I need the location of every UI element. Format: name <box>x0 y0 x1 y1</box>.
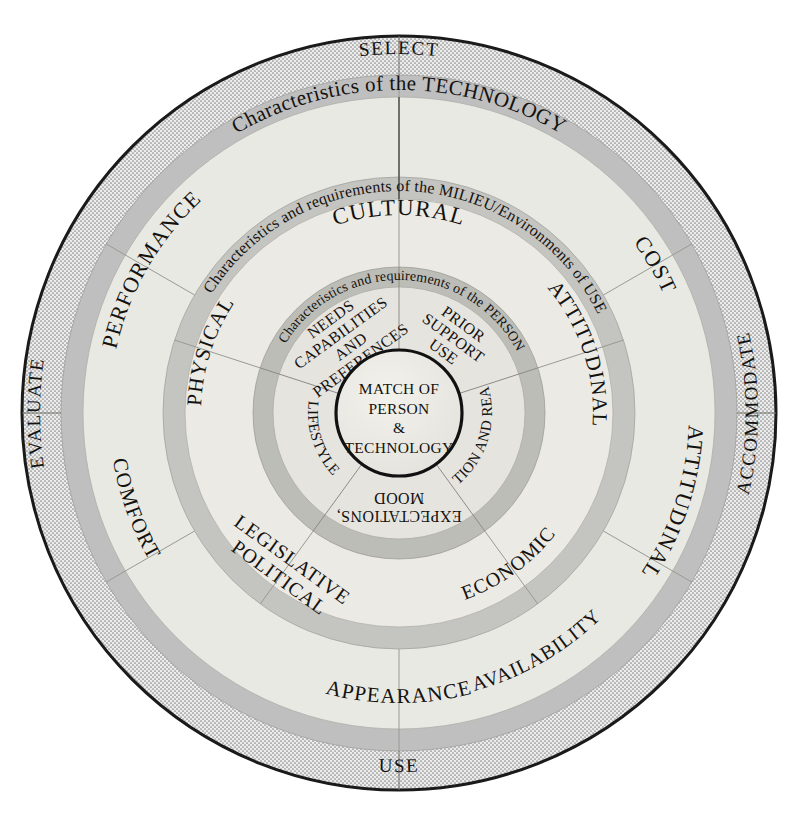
core-node: MATCH OF PERSON & TECHNOLOGY <box>336 350 462 476</box>
process-label-use: USE <box>378 754 419 776</box>
matching-person-technology-wheel: SELECTACCOMMODATEUSEEVALUATECharacterist… <box>0 0 798 826</box>
core-line-1: MATCH OF <box>359 380 439 397</box>
svg-text:EXPECTATIONS,: EXPECTATIONS, <box>336 508 461 525</box>
core-line-4: TECHNOLOGY <box>345 439 454 456</box>
core-line-3: & <box>393 419 405 436</box>
svg-text:MOOD: MOOD <box>374 490 425 507</box>
diagram-canvas: SELECTACCOMMODATEUSEEVALUATECharacterist… <box>0 0 798 826</box>
core-line-2: PERSON <box>368 400 429 417</box>
